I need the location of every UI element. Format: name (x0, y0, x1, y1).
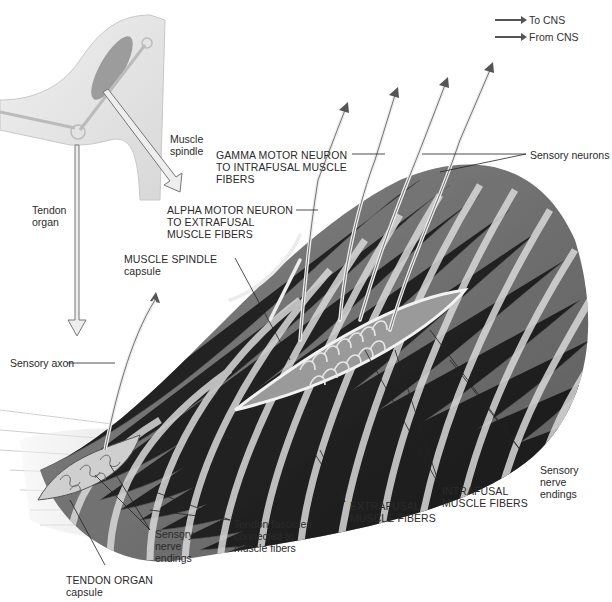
legend-to-cns: To CNS (495, 14, 565, 26)
arm-inset (0, 15, 165, 200)
label-sensory-nerve-endings-left: Sensory nerve endings (155, 528, 194, 564)
arrow-right-icon (495, 36, 525, 38)
label-sensory-neurons: Sensory neurons (530, 149, 609, 161)
label-tendon-organ-capsule: TENDON ORGAN capsule (66, 574, 153, 598)
label-extrafusal-muscle-fibers: EXTRAFUSAL MUSCLE FIBERS (350, 500, 436, 524)
arrow-right-icon (495, 19, 525, 21)
label-sensory-axon: Sensory axon (10, 357, 74, 369)
label-alpha-motor-neuron: ALPHA MOTOR NEURON TO EXTRAFUSAL MUSCLE … (167, 204, 293, 240)
label-tendon-organ-inset: Tendon organ (32, 204, 66, 228)
label-tendon-fascicles: Tendon fascicles connected to muscle fib… (234, 518, 312, 554)
label-muscle-spindle-inset: Muscle spindle (170, 133, 203, 157)
legend-from-cns-label: From CNS (529, 31, 579, 43)
label-gamma-motor-neuron: GAMMA MOTOR NEURON TO INTRAFUSAL MUSCLE … (216, 149, 347, 185)
muscle-illustration (0, 0, 612, 602)
legend-to-cns-label: To CNS (529, 14, 565, 26)
label-muscle-spindle-capsule: MUSCLE SPINDLE capsule (124, 253, 217, 277)
label-sensory-nerve-endings-right: Sensory nerve endings (540, 464, 579, 500)
label-intrafusal-muscle-fibers: INTRAFUSAL MUSCLE FIBERS (442, 485, 528, 509)
legend-from-cns: From CNS (495, 31, 579, 43)
